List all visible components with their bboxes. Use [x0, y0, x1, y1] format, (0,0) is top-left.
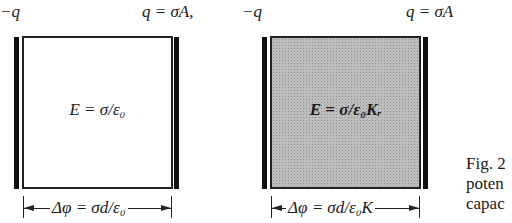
caption-line: poten: [466, 174, 506, 194]
negative-plate: [262, 37, 267, 189]
figure-caption: Fig. 2 poten capac: [466, 154, 506, 214]
right-charge-label: q = σA: [406, 2, 453, 22]
positive-plate: [174, 37, 179, 189]
left-charge-label: −q: [0, 2, 20, 22]
caption-line: capac: [466, 194, 506, 214]
arrow-left-icon: [272, 205, 282, 211]
left-charge-label: −q: [242, 2, 262, 22]
caption-line: Fig. 2: [466, 154, 506, 174]
arrow-right-icon: [161, 205, 171, 211]
potential-difference: Δφ = σd/ε₀K: [286, 198, 375, 218]
field-equation: E = σ/ε₀Kᵣ: [270, 100, 421, 120]
negative-plate: [14, 37, 19, 189]
positive-plate: [423, 37, 428, 189]
field-equation: E = σ/ε₀: [22, 100, 173, 120]
dimension-tick-right: [419, 196, 420, 218]
dimension-tick-right: [171, 196, 172, 218]
arrow-right-icon: [409, 205, 419, 211]
arrow-left-icon: [24, 205, 34, 211]
potential-difference: Δφ = σd/ε₀: [50, 198, 128, 218]
right-charge-label: q = σA,: [142, 2, 194, 22]
